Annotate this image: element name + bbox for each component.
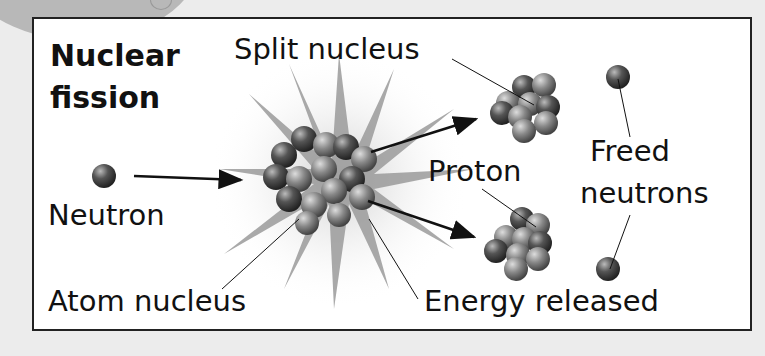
freed-neutron-top-icon bbox=[606, 65, 630, 89]
leader-proton bbox=[482, 189, 536, 227]
freed-neutron-bottom-icon bbox=[596, 257, 620, 281]
diagram-panel: Nuclear fission Split nucleus Freed neut… bbox=[32, 17, 752, 331]
title-line-2: fission bbox=[50, 77, 180, 119]
leader-freed-bottom bbox=[610, 215, 630, 269]
label-freed: Freed bbox=[590, 137, 670, 166]
label-neutrons: neutrons bbox=[580, 179, 709, 208]
neutron-icon bbox=[92, 164, 116, 188]
title-line-1: Nuclear bbox=[50, 35, 180, 77]
leader-freed-top bbox=[618, 79, 630, 137]
label-proton: Proton bbox=[428, 157, 522, 186]
split-nucleus-bottom-icon bbox=[484, 207, 552, 281]
label-split-nucleus: Split nucleus bbox=[234, 35, 420, 64]
diagram-title: Nuclear fission bbox=[50, 35, 180, 119]
label-energy-released: Energy released bbox=[424, 287, 659, 316]
label-neutron: Neutron bbox=[48, 201, 165, 230]
split-nucleus-top-icon bbox=[490, 73, 560, 143]
label-atom-nucleus: Atom nucleus bbox=[48, 287, 246, 316]
